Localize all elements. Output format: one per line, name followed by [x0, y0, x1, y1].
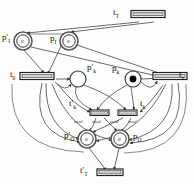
petri-net-figure: tT t0 tn t′k tk t′T p′I pI p′k pk p′O pO…	[0, 0, 194, 184]
token-dot	[130, 76, 137, 83]
arc-annotation-2: mod	[92, 119, 101, 124]
token-value-p_O: 0	[118, 137, 121, 142]
place-p_k_prime[interactable]	[70, 71, 86, 87]
token-value-p_I: 0	[67, 39, 70, 44]
token-value-p_I_prime: 0	[21, 39, 24, 44]
place-label-p_I_prime: p′I	[2, 33, 10, 44]
petri-net-canvas	[0, 0, 194, 184]
transition-label-t_k_prime: t′k	[69, 99, 76, 110]
place-label-p_I: pI	[50, 34, 56, 45]
transition-t_k_prime[interactable]	[90, 110, 109, 116]
arc-pkprime-to-tkprime	[75, 87, 92, 110]
place-layer	[14, 32, 141, 148]
transition-label-t_T: tT	[113, 8, 119, 19]
transition-label-t_n: tn	[179, 70, 184, 81]
arc-annotation-1: mod	[74, 119, 83, 124]
transition-t_k[interactable]	[118, 110, 137, 116]
token-value-p_O_prime: 0	[85, 137, 88, 142]
place-label-p_k: pk	[112, 64, 119, 75]
transition-t_0[interactable]	[20, 73, 54, 80]
arc-layer	[24, 22, 179, 170]
place-label-p_k_prime: p′k	[87, 63, 96, 74]
transition-label-t_T_prime: t′T	[80, 166, 88, 177]
arc-annotation-4: mod	[128, 119, 137, 124]
transition-t_T_prime[interactable]	[97, 169, 123, 176]
arc-pIprime-to-t0	[24, 50, 44, 73]
arc-pOprime-to-tTprime	[89, 148, 106, 170]
place-p_k[interactable]	[125, 71, 141, 87]
arc-annotation-3: mod	[110, 119, 119, 124]
arc-t0-to-pkprime	[55, 82, 71, 88]
arc-pO-to-tTprime	[114, 148, 119, 170]
arc-pI-to-t0	[48, 46, 61, 74]
arc-pk-to-tn	[141, 81, 157, 87]
arc-tT-to-pIprime	[27, 22, 139, 33]
place-label-p_O_prime: p′O	[64, 131, 74, 142]
arc-pk-to-tk	[131, 87, 134, 110]
arc-tT-to-pI	[71, 22, 154, 32]
transition-label-t_0: t0	[10, 70, 15, 81]
transition-t_T[interactable]	[131, 11, 165, 18]
transition-label-t_k: tk	[140, 99, 145, 110]
place-label-p_O: pO	[133, 132, 142, 143]
